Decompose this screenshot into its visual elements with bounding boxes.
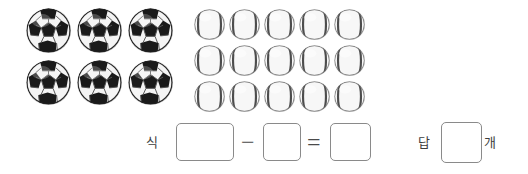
soccer-ball-icon [26,60,71,105]
baseball-icon [299,9,330,40]
soccer-ball-icon [128,60,173,105]
baseball-icon [229,81,260,112]
baseball-item [334,81,369,117]
equals-operator-icon: = [307,130,321,154]
baseball-icon [194,9,225,40]
answer-box-wrapper [441,117,482,167]
baseball-icon [229,9,260,40]
baseball-item [299,81,334,117]
soccer-ball-icon [128,8,173,53]
baseball-icon [299,81,330,112]
baseball-item [264,45,299,81]
soccer-ball-item [77,60,128,112]
baseball-icon [194,45,225,76]
baseball-group [194,9,369,117]
unit-label: 개 [484,136,496,149]
minuend-box-wrapper [176,117,234,167]
baseball-item [299,45,334,81]
subtrahend-input-box[interactable] [263,123,301,161]
soccer-ball-item [128,60,179,112]
baseball-icon [299,45,330,76]
soccer-ball-icon [26,8,71,53]
baseball-item [194,81,229,117]
answer-input-box[interactable] [441,122,482,163]
baseball-item [194,45,229,81]
result-input-box[interactable] [330,123,371,161]
baseball-icon [194,81,225,112]
answer-row: 식 − = 답 개 [0,117,528,167]
baseball-item [229,45,264,81]
baseball-item [299,9,334,45]
equals-operator-wrapper: = [307,117,321,167]
baseball-icon [264,9,295,40]
baseball-icon [264,45,295,76]
soccer-ball-group [26,8,179,112]
baseball-item [264,9,299,45]
expression-label-wrapper: 식 [146,117,158,167]
baseball-icon [334,45,365,76]
baseball-icon [334,81,365,112]
answer-label: 답 [418,136,430,149]
soccer-ball-item [77,8,128,60]
soccer-ball-icon [77,60,122,105]
worksheet-canvas: 식 − = 답 개 [0,0,528,174]
answer-label-wrapper: 답 [418,117,430,167]
soccer-ball-item [26,8,77,60]
expression-label: 식 [146,136,158,149]
subtrahend-box-wrapper [263,117,301,167]
baseball-item [334,9,369,45]
baseball-item [264,81,299,117]
result-box-wrapper [330,117,371,167]
soccer-ball-item [128,8,179,60]
baseball-icon [229,45,260,76]
minus-operator-wrapper: − [241,117,255,167]
minus-operator-icon: − [241,130,255,154]
soccer-ball-item [26,60,77,112]
baseball-item [194,9,229,45]
baseball-icon [334,9,365,40]
baseball-item [229,9,264,45]
baseball-item [334,45,369,81]
unit-label-wrapper: 개 [484,117,496,167]
baseball-icon [264,81,295,112]
baseball-item [229,81,264,117]
soccer-ball-icon [77,8,122,53]
minuend-input-box[interactable] [176,123,234,161]
